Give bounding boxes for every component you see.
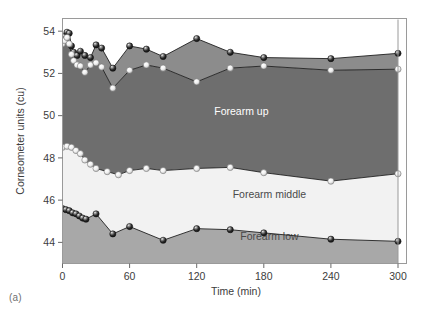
data-point [83,216,89,222]
data-point [194,35,200,41]
figure-caption: (a) [9,292,22,303]
data-point [64,34,70,40]
data-point [143,46,149,52]
data-point [143,165,149,171]
data-point [93,211,99,217]
data-point [227,49,233,55]
band-label-upper-arm: Upper arm [256,43,306,55]
y-axis-title: Corneometer units (cu) [14,87,26,194]
x-tick-label: 180 [255,270,273,282]
x-tick-label: 60 [124,270,136,282]
data-point [261,230,267,236]
data-point [93,42,99,48]
data-point [194,226,200,232]
data-point [261,170,267,176]
data-point [77,63,83,69]
y-tick-label: 46 [43,194,55,206]
x-tick-label: 240 [322,270,340,282]
data-point [110,85,116,91]
data-point [87,54,93,60]
data-point [99,45,105,51]
x-tick-label: 0 [60,270,66,282]
data-point [82,52,88,58]
data-point [227,65,233,71]
data-point [93,60,99,66]
figure-container: Upper armForearm upForearm middleForearm… [0,0,431,323]
data-point [261,54,267,60]
y-tick-label: 50 [43,109,55,121]
data-point [93,165,99,171]
data-point [82,157,88,163]
data-point [143,62,149,68]
data-point [115,172,121,178]
data-point [99,64,105,70]
data-point [77,151,83,157]
data-point [160,237,166,243]
data-point [127,223,133,229]
corneometer-time-series-chart: Upper armForearm upForearm middleForearm… [0,0,431,323]
data-point [328,56,334,62]
data-point [104,169,110,175]
y-axis: 444648505254 [43,19,62,264]
data-point [227,227,233,233]
data-point [328,236,334,242]
y-tick-label: 48 [43,152,55,164]
band-label-forearm-middle: Forearm middle [233,188,307,200]
data-point [328,67,334,73]
data-point [110,231,116,237]
data-point [127,67,133,73]
data-point [194,79,200,85]
x-axis-title: Time (min) [211,285,261,297]
data-point [110,65,116,71]
band-label-forearm-up: Forearm up [214,105,268,117]
x-axis: 060120180240300 [60,264,407,283]
data-point [160,167,166,173]
x-tick-label: 300 [389,270,407,282]
data-point [127,43,133,49]
y-tick-label: 54 [43,25,55,37]
data-point [82,69,88,75]
data-point [66,41,72,47]
band-label-forearm-low: Forearm low [240,230,299,242]
data-point [194,165,200,171]
data-point [160,53,166,59]
data-point [227,164,233,170]
data-point [261,63,267,69]
y-tick-label: 52 [43,67,55,79]
x-tick-label: 120 [188,270,206,282]
data-point [87,161,93,167]
data-point [127,167,133,173]
data-point [68,51,74,57]
data-point [328,178,334,184]
data-point [160,65,166,71]
data-point [87,62,93,68]
y-tick-label: 44 [43,236,55,248]
